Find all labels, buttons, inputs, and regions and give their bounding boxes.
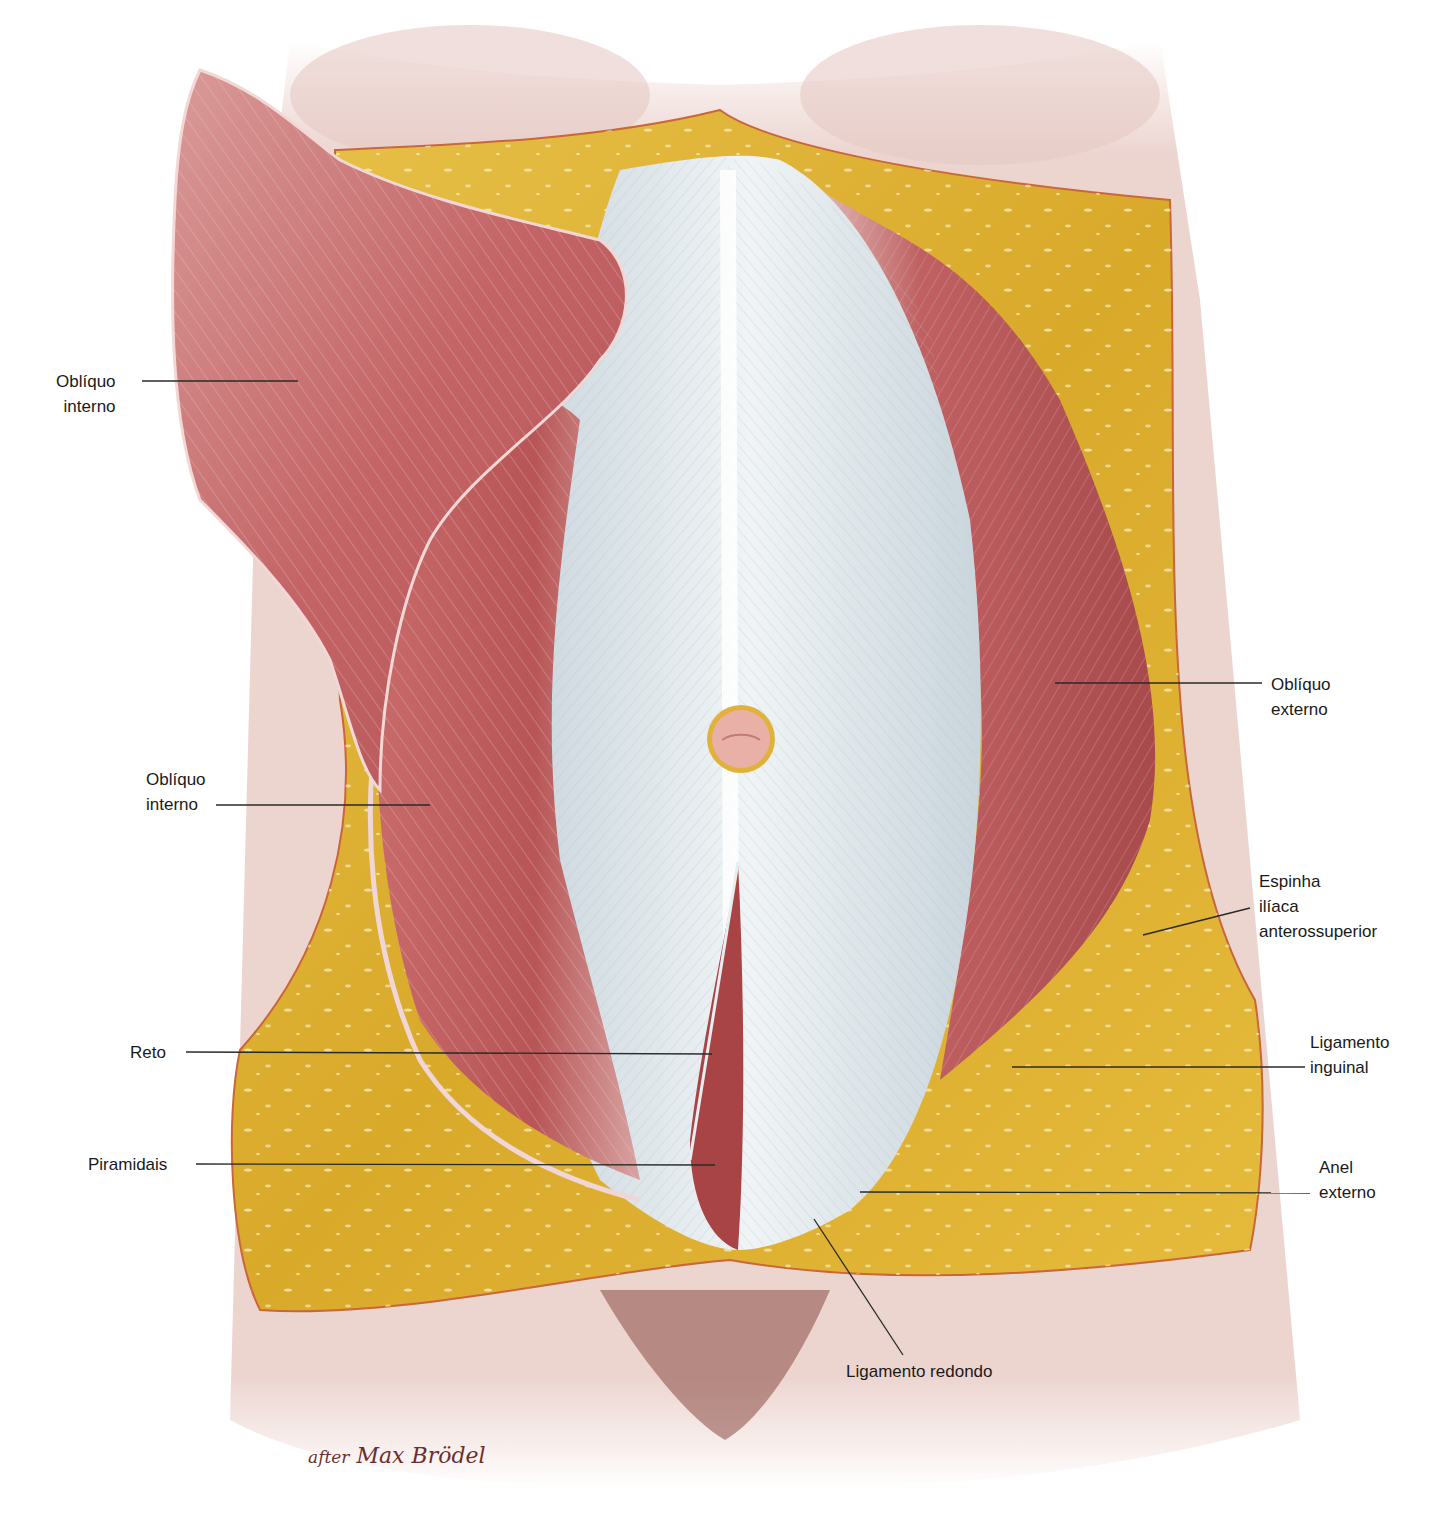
label-ligamento-inguinal: Ligamento inguinal [1310, 1030, 1389, 1080]
label-obliquo-interno-lower: Oblíquo interno [146, 767, 206, 817]
credit-prefix: after [308, 1447, 349, 1467]
label-piramidais: Piramidais [88, 1152, 167, 1177]
right-breast [800, 25, 1160, 165]
label-anel-externo: Anel externo [1319, 1155, 1376, 1205]
label-obliquo-interno-upper: Oblíquo interno [56, 369, 116, 419]
umbilicus [712, 710, 770, 768]
artist-credit: after Max Brödel [308, 1443, 486, 1468]
label-obliquo-externo: Oblíquo externo [1271, 672, 1331, 722]
anatomy-illustration [0, 0, 1445, 1515]
label-ligamento-redondo: Ligamento redondo [846, 1359, 993, 1384]
credit-name: Max Brödel [356, 1443, 485, 1468]
label-reto: Reto [130, 1040, 166, 1065]
label-espinha-iliaca: Espinha ilíaca anterossuperior [1259, 869, 1377, 944]
anatomy-figure: Oblíquo interno Oblíquo interno Reto Pir… [0, 0, 1445, 1515]
